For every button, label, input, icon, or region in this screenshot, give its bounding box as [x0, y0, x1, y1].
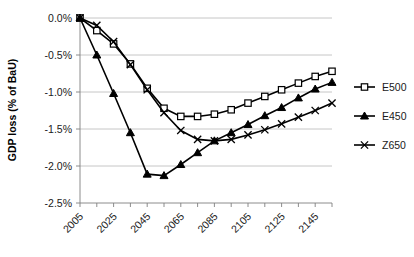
legend-label-e500: E500: [382, 81, 407, 93]
legend-label-z650: Z650: [382, 139, 406, 151]
series-e500-marker-square: [245, 100, 251, 106]
series-e500-marker-square: [228, 107, 234, 113]
series-e500-marker-square: [178, 113, 184, 119]
series-e500-marker-square: [194, 113, 200, 119]
legend-e500-marker-square: [361, 84, 367, 90]
gdp-loss-line-chart: 0.0%-0.5%-1.0%-1.5%-2.0%-2.5% 2005202520…: [0, 0, 414, 257]
series-e500-marker-square: [312, 73, 318, 79]
y-tick-label: -1.5%: [45, 123, 72, 135]
series-e500-marker-square: [262, 93, 268, 99]
series-e500-marker-square: [329, 68, 335, 74]
series-e500-marker-square: [278, 87, 284, 93]
series-e500-marker-square: [211, 111, 217, 117]
chart-canvas: 0.0%-0.5%-1.0%-1.5%-2.0%-2.5% 2005202520…: [0, 0, 414, 257]
y-tick-label: -1.0%: [45, 86, 72, 98]
y-tick-label: -2.0%: [45, 160, 72, 172]
y-tick-label: -2.5%: [45, 197, 72, 209]
y-axis-title: GDP loss (% of BaU): [6, 59, 18, 162]
y-axis-title-text: GDP loss (% of BaU): [6, 59, 18, 162]
y-tick-label: 0.0%: [48, 12, 72, 24]
y-tick-label: -0.5%: [45, 49, 72, 61]
legend-label-e450: E450: [382, 110, 407, 122]
series-e500-marker-square: [295, 80, 301, 86]
